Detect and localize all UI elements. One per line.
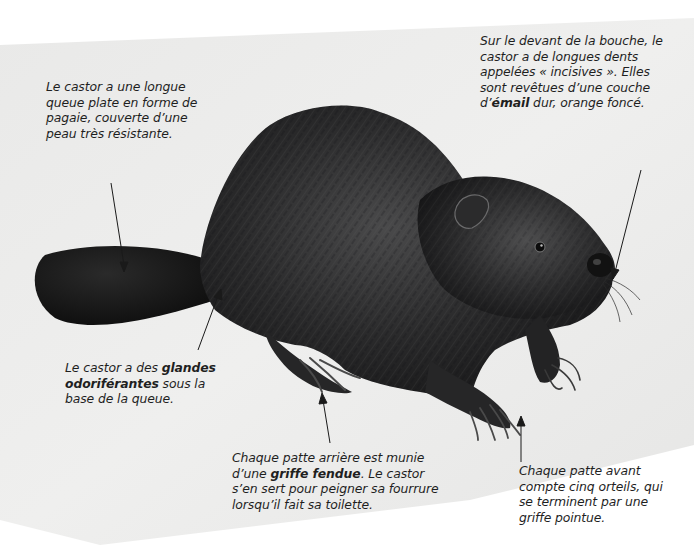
- keyword-email: émail: [492, 95, 530, 110]
- annotation-front-foot: Chaque patte avant compte cinq orteils, …: [519, 463, 663, 525]
- beaver-diagram: Le castor a une longue queue plate en fo…: [0, 0, 694, 553]
- arrow-front-foot: [517, 416, 525, 462]
- annotation-front-foot-line: se terminent par une: [519, 494, 663, 510]
- annotation-incisors-line: appelées « incisives ». Elles: [480, 64, 663, 80]
- keyword-glandes: glandes: [162, 360, 216, 375]
- annotation-hind-foot-line: s’en sert pour peigner sa fourrure: [232, 481, 439, 497]
- annotation-front-foot-line: compte cinq orteils, qui: [519, 479, 663, 495]
- text-fragment: d’une: [232, 466, 270, 481]
- annotation-glands-line: base de la queue.: [65, 391, 216, 407]
- annotation-front-foot-line: Chaque patte avant: [519, 463, 663, 479]
- annotation-glands-line: odoriférantes sous la: [65, 376, 216, 392]
- annotation-glands-line: Le castor a des glandes: [65, 360, 216, 376]
- annotation-tail-line: queue plate en forme de: [46, 95, 197, 111]
- text-fragment: Le castor a des: [65, 360, 162, 375]
- arrow-hind-foot: [319, 393, 330, 443]
- keyword-griffe-fendue: griffe fendue: [270, 466, 360, 481]
- text-fragment: . Le castor: [361, 466, 425, 481]
- text-fragment: sous la: [159, 376, 205, 391]
- annotation-incisors: Sur le devant de la bouche, le castor a …: [480, 33, 663, 111]
- annotation-incisors-line: d’émail dur, orange foncé.: [480, 95, 663, 111]
- annotation-hind-foot-line: d’une griffe fendue. Le castor: [232, 466, 439, 482]
- arrow-incisors: [611, 170, 641, 279]
- keyword-odoriferantes: odoriférantes: [65, 376, 159, 391]
- annotation-tail-line: peau très résistante.: [46, 126, 197, 142]
- annotation-tail: Le castor a une longue queue plate en fo…: [46, 79, 197, 141]
- text-fragment: d’: [480, 95, 492, 110]
- annotation-front-foot-line: griffe pointue.: [519, 510, 663, 526]
- tail-shape: [35, 246, 215, 325]
- annotation-hind-foot-line: lorsqu’il fait sa toilette.: [232, 497, 439, 513]
- annotation-tail-line: Le castor a une longue: [46, 79, 197, 95]
- annotation-incisors-line: Sur le devant de la bouche, le: [480, 33, 663, 49]
- text-fragment: dur, orange foncé.: [529, 95, 644, 110]
- annotation-incisors-line: sont revêtues d’une couche: [480, 80, 663, 96]
- annotation-incisors-line: castor a de longues dents: [480, 49, 663, 65]
- annotation-hind-foot: Chaque patte arrière est munie d’une gri…: [232, 450, 439, 512]
- annotation-tail-line: pagaie, couverte d’une: [46, 110, 197, 126]
- annotation-hind-foot-line: Chaque patte arrière est munie: [232, 450, 439, 466]
- annotation-glands: Le castor a des glandes odoriférantes so…: [65, 360, 216, 407]
